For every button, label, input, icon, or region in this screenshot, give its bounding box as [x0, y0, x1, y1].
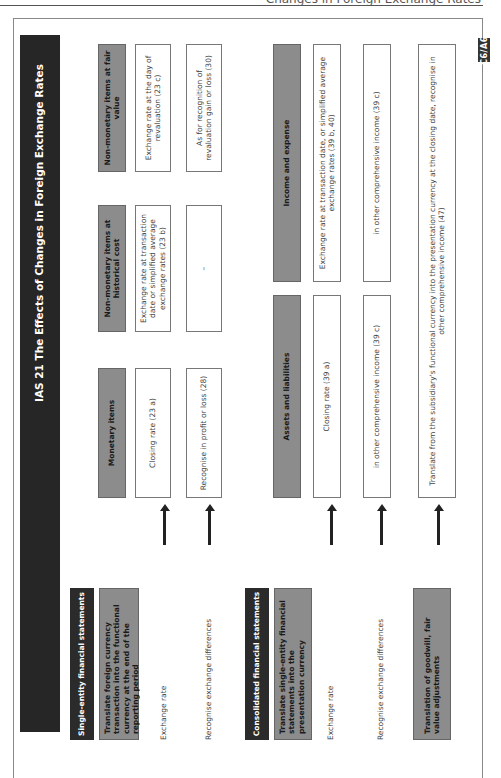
historical-exchange-rate: Exchange rate at transaction date or sim… [135, 205, 171, 332]
single-exchange-rate-label: Exchange rate [156, 600, 172, 740]
col-non-monetary-historical: Non-monetary items at historical cost [98, 205, 126, 332]
arrow-right-icon [330, 510, 333, 545]
consolidated-header: Consolidated financial statements [245, 588, 269, 740]
col-non-monetary-fair-value: Non-monetary items at fair value [98, 44, 126, 172]
income-exchange-rate: Exchange rate at transaction date, or si… [313, 44, 341, 282]
diagram-canvas: IAS 21 The Effects of Changes in Foreign… [13, 18, 483, 750]
fair-value-recognise: As for recognition of revaluation gain o… [186, 44, 222, 172]
goodwill-label: Translation of goodwill, fair value adju… [413, 588, 451, 740]
single-entity-description: Translate foreign currency transaction i… [99, 588, 139, 740]
monetary-exchange-rate: Closing rate (23 a) [135, 368, 171, 498]
income-recognise: in other comprehensive income (39 c) [363, 44, 391, 282]
col-monetary-items: Monetary items [98, 368, 126, 498]
assets-recognise: in other comprehensive income (39 c) [363, 295, 391, 498]
historical-recognise: – [186, 205, 222, 332]
col-income-expense: Income and expense [273, 44, 301, 282]
single-entity-header: Single-entity financial statements [70, 588, 94, 740]
consolidated-exchange-rate-label: Exchange rate [323, 600, 339, 740]
arrow-right-icon [380, 510, 383, 545]
arrow-right-icon [437, 510, 440, 545]
arrow-right-icon [208, 510, 211, 545]
col-assets-liabilities: Assets and liabilities [273, 295, 301, 498]
assets-exchange-rate: Closing rate (39 a) [313, 295, 341, 498]
fair-value-exchange-rate: Exchange rate at the day of revaluation … [135, 44, 171, 172]
diagram-title: IAS 21 The Effects of Changes in Foreign… [20, 35, 60, 732]
arrow-right-icon [163, 510, 166, 545]
running-head: Changes in Foreign Exchange Rates [266, 0, 481, 6]
monetary-recognise: Recognise in profit or loss (28) [186, 368, 222, 498]
consolidated-description: Translate single-entity financial statem… [274, 588, 312, 740]
single-recognise-label: Recognise exchange differences [201, 580, 217, 740]
consolidated-recognise-label: Recognise exchange differences [373, 580, 389, 740]
goodwill-treatment: Translate from the subsidiary's function… [418, 44, 456, 498]
